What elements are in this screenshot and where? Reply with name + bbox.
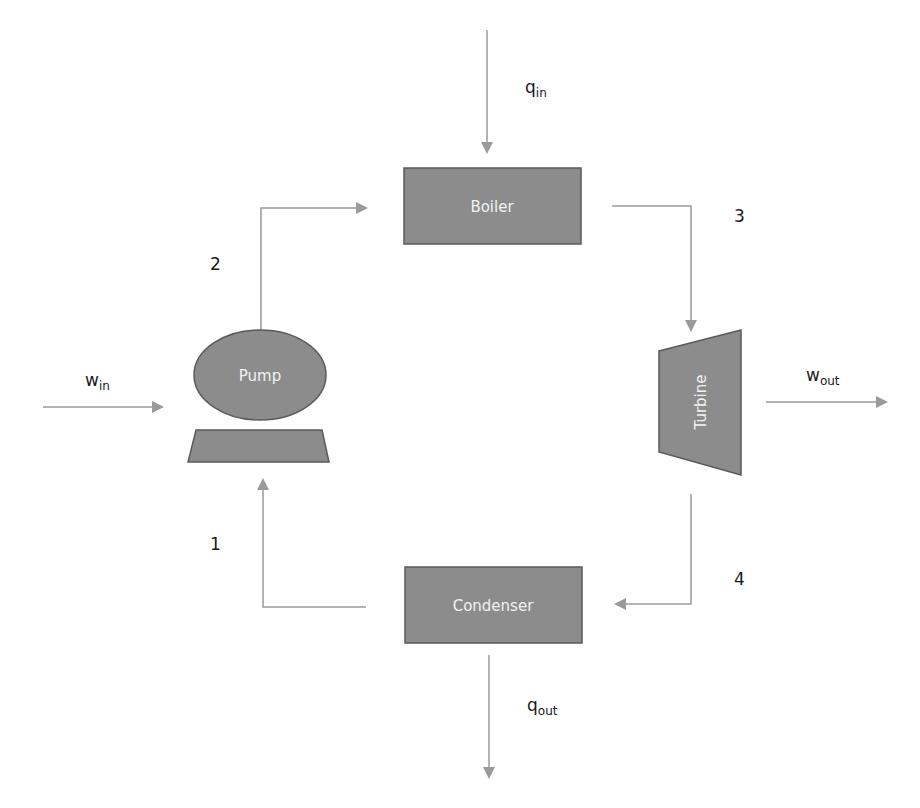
state-1-label: 1 [210, 534, 221, 554]
w-out-label: wout [806, 365, 840, 388]
boiler-label: Boiler [470, 198, 514, 216]
arrow-pump-to-boiler [261, 208, 366, 330]
turbine-label: Turbine [692, 375, 710, 431]
w-in-label: win [85, 370, 110, 393]
boiler: Boiler [404, 168, 581, 244]
pump: Pump [188, 330, 329, 462]
turbine: Turbine [659, 330, 741, 475]
arrow-condenser-to-pump [263, 480, 366, 607]
arrow-turbine-to-condenser [616, 494, 691, 604]
rankine-cycle-diagram: qin Boiler 2 3 Turbine wout 4 Condenser … [0, 0, 920, 808]
q-out-label: qout [527, 695, 558, 718]
condenser-label: Condenser [453, 597, 534, 615]
q-in-label: qin [525, 77, 547, 100]
arrow-boiler-to-turbine [612, 206, 691, 330]
state-3-label: 3 [734, 206, 745, 226]
state-4-label: 4 [734, 569, 745, 589]
condenser: Condenser [405, 567, 582, 643]
pump-label: Pump [239, 367, 281, 385]
state-2-label: 2 [210, 254, 221, 274]
